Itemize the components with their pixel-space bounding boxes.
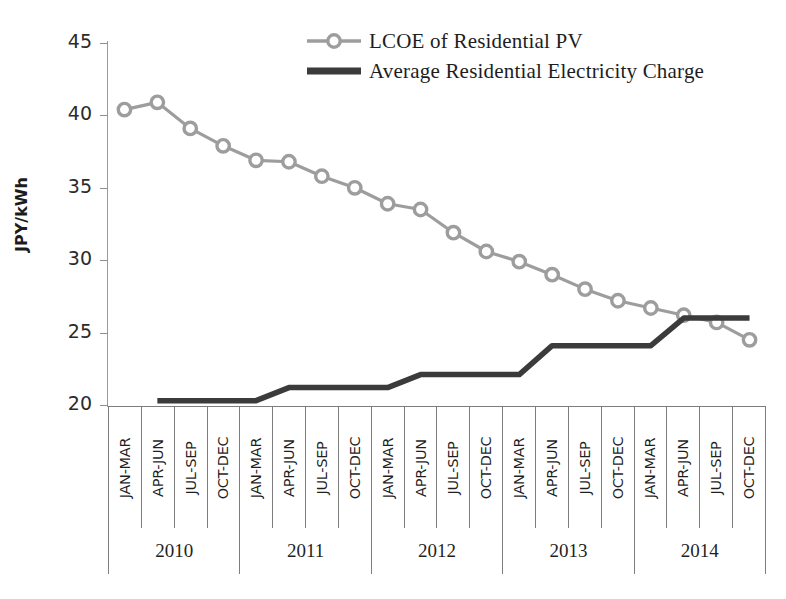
x-axis-year-label: 2013	[549, 540, 587, 562]
x-axis-quarter-label: JAN-MAR	[511, 437, 527, 497]
data-point-marker	[118, 103, 130, 115]
data-point-marker	[414, 203, 426, 215]
y-tick-label: 25	[50, 322, 92, 341]
x-axis-quarter-label: JAN-MAR	[642, 437, 658, 497]
x-axis-quarter-cell: JUL-SEP	[569, 407, 602, 528]
x-axis-quarter-cell: JUL-SEP	[437, 407, 470, 528]
data-point-marker	[447, 226, 459, 238]
x-axis-quarter-cell: APR-JUN	[405, 407, 438, 528]
x-axis-quarter-label: OCT-DEC	[347, 436, 363, 499]
x-axis-quarter-label: JUL-SEP	[314, 441, 330, 494]
x-axis-quarter-label: JUL-SEP	[577, 441, 593, 494]
x-axis-quarter-label: JUL-SEP	[183, 441, 199, 494]
x-axis-quarter-label: JAN-MAR	[248, 437, 264, 497]
x-axis-year-label: 2010	[155, 540, 193, 562]
x-axis-year-row: 20102011201220132014	[108, 528, 766, 574]
x-axis-quarter-label: JAN-MAR	[117, 437, 133, 497]
series-lcoe	[118, 96, 756, 346]
x-axis-quarter-cell: APR-JUN	[142, 407, 175, 528]
y-tick-mark	[100, 333, 108, 334]
y-tick-mark	[100, 188, 108, 189]
x-axis-quarter-label: JAN-MAR	[380, 437, 396, 497]
y-tick-mark	[100, 43, 108, 44]
x-axis-quarter-cell: JAN-MAR	[240, 407, 273, 528]
legend-item: Average Residential Electricity Charge	[305, 56, 775, 86]
legend-label: Average Residential Electricity Charge	[369, 59, 704, 84]
x-axis-quarter-cell: OCT-DEC	[733, 407, 766, 528]
data-point-marker	[480, 245, 492, 257]
y-tick-label: 35	[50, 177, 92, 196]
x-axis-year-cell: 2012	[372, 528, 503, 574]
x-axis-quarter-label: OCT-DEC	[741, 436, 757, 499]
y-axis-title: JPY/kWh	[12, 155, 31, 275]
y-tick-mark	[100, 115, 108, 116]
x-axis-quarter-cell: JUL-SEP	[700, 407, 733, 528]
x-axis-quarter-cell: APR-JUN	[273, 407, 306, 528]
x-axis-year-label: 2014	[681, 540, 719, 562]
data-point-marker	[151, 96, 163, 108]
x-axis: JAN-MARAPR-JUNJUL-SEPOCT-DECJAN-MARAPR-J…	[108, 406, 766, 574]
data-point-marker	[316, 170, 328, 182]
x-axis-quarter-label: APR-JUN	[281, 439, 297, 497]
x-axis-quarter-label: APR-JUN	[544, 439, 560, 497]
data-point-marker	[217, 140, 229, 152]
y-tick-label: 30	[50, 249, 92, 268]
x-axis-quarter-label: APR-JUN	[150, 439, 166, 497]
x-axis-quarter-cell: APR-JUN	[536, 407, 569, 528]
x-axis-quarter-cell: JAN-MAR	[503, 407, 536, 528]
chart-legend: LCOE of Residential PVAverage Residentia…	[305, 26, 775, 86]
y-axis-tick-labels: 454035302520	[48, 0, 92, 599]
x-axis-quarter-cell: JAN-MAR	[109, 407, 142, 528]
x-axis-quarter-cell: JUL-SEP	[175, 407, 208, 528]
chart-container: JPY/kWh 454035302520 JAN-MARAPR-JUNJUL-S…	[0, 0, 786, 599]
x-axis-quarter-cell: OCT-DEC	[208, 407, 241, 528]
x-axis-quarter-cell: OCT-DEC	[602, 407, 635, 528]
y-tick-mark	[100, 260, 108, 261]
x-axis-year-label: 2011	[287, 540, 324, 562]
x-axis-quarter-label: OCT-DEC	[215, 436, 231, 499]
series-layer	[108, 43, 766, 405]
x-axis-quarter-cell: OCT-DEC	[339, 407, 372, 528]
x-axis-quarter-label: APR-JUN	[413, 439, 429, 497]
data-point-marker	[612, 295, 624, 307]
data-point-marker	[645, 302, 657, 314]
data-point-marker	[250, 154, 262, 166]
y-tick-label: 40	[50, 104, 92, 123]
y-tick-label: 20	[50, 394, 92, 413]
x-axis-quarter-label: JUL-SEP	[708, 441, 724, 494]
x-axis-quarter-cell: JAN-MAR	[372, 407, 405, 528]
series-line	[157, 318, 749, 401]
data-point-marker	[743, 334, 755, 346]
x-axis-year-cell: 2014	[635, 528, 766, 574]
legend-line-marker-icon	[305, 30, 363, 52]
data-point-marker	[349, 182, 361, 194]
x-axis-quarter-label: OCT-DEC	[610, 436, 626, 499]
x-axis-quarter-label: APR-JUN	[675, 439, 691, 497]
x-axis-quarter-cell: JUL-SEP	[306, 407, 339, 528]
data-point-marker	[184, 122, 196, 134]
x-axis-quarter-cell: APR-JUN	[667, 407, 700, 528]
x-axis-quarter-label: OCT-DEC	[478, 436, 494, 499]
plot-area	[108, 43, 766, 405]
x-axis-quarter-label: JUL-SEP	[445, 441, 461, 494]
x-axis-year-cell: 2011	[240, 528, 371, 574]
x-axis-year-cell: 2010	[109, 528, 240, 574]
data-point-marker	[513, 255, 525, 267]
x-axis-quarter-row: JAN-MARAPR-JUNJUL-SEPOCT-DECJAN-MARAPR-J…	[108, 406, 766, 528]
y-tick-label: 45	[50, 32, 92, 51]
legend-item: LCOE of Residential PV	[305, 26, 775, 56]
x-axis-quarter-cell: OCT-DEC	[470, 407, 503, 528]
data-point-marker	[381, 198, 393, 210]
legend-line-icon	[305, 60, 363, 82]
y-tick-mark	[100, 405, 108, 406]
series-electricity-charge	[157, 318, 749, 401]
x-axis-year-cell: 2013	[503, 528, 634, 574]
data-point-marker	[283, 156, 295, 168]
legend-label: LCOE of Residential PV	[369, 29, 583, 54]
data-point-marker	[579, 283, 591, 295]
data-point-marker	[546, 268, 558, 280]
x-axis-quarter-cell: JAN-MAR	[635, 407, 668, 528]
x-axis-year-label: 2012	[418, 540, 456, 562]
